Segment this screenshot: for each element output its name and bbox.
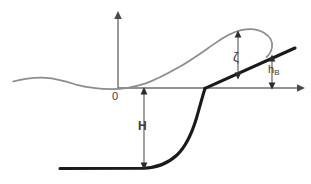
wave-breaking-diagram: 0 ζ hB H bbox=[0, 0, 311, 184]
sloping-bed-line bbox=[205, 48, 295, 88]
breaker-depth-subscript: B bbox=[274, 68, 279, 77]
diagram-canvas bbox=[0, 0, 311, 184]
y-axis-arrowhead-icon bbox=[114, 11, 122, 19]
breaker-depth-label: hB bbox=[268, 64, 279, 75]
wave-elevation-label: ζ bbox=[233, 50, 239, 63]
offshore-bed-profile-curve bbox=[60, 88, 205, 168]
still-water-depth-label: H bbox=[138, 120, 147, 132]
origin-label: 0 bbox=[112, 91, 118, 102]
y-axis bbox=[114, 11, 122, 89]
x-axis-arrowhead-icon bbox=[297, 84, 305, 92]
